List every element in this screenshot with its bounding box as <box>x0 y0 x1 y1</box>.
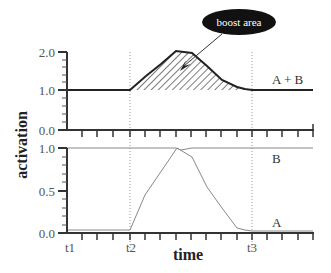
top-ytick-label-2: 2.0 <box>39 45 55 60</box>
callout-label: boost area <box>217 16 262 28</box>
top-ytick-label-1: 1.0 <box>39 83 55 98</box>
boost-area-fill <box>130 51 252 90</box>
series-label-a-plus-b: A + B <box>272 72 304 87</box>
xtick-label-t1: t1 <box>65 240 75 255</box>
series-label-a: A <box>272 215 282 230</box>
bottom-ytick-label-1: 1.0 <box>39 141 55 156</box>
top-panel: 2.0 1.0 0.0 A + B boost area <box>39 9 314 250</box>
chart: activation 2.0 1.0 0.0 <box>0 0 331 273</box>
bottom-panel: 1.0 0.5 0.0 t1 t2 t3 time B A <box>39 141 314 263</box>
bottom-ytick-label-05: 0.5 <box>39 184 55 199</box>
bottom-ytick-label-0: 0.0 <box>39 226 55 241</box>
series-label-b: B <box>272 151 281 166</box>
y-axis-label: activation <box>13 111 30 179</box>
bottom-xticks <box>82 233 313 240</box>
xtick-label-t3: t3 <box>247 240 257 255</box>
top-ytick-label-0: 0.0 <box>39 123 55 138</box>
x-axis-label: time <box>173 246 203 263</box>
b-curve <box>67 148 313 150</box>
xtick-label-t2: t2 <box>126 240 136 255</box>
